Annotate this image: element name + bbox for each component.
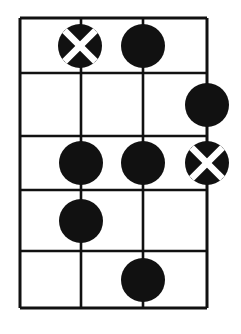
stone-filled-r2-line-right[interactable] <box>185 83 229 127</box>
grid-diagram: Grid board diagram with stones Rectangul… <box>0 0 241 334</box>
stone-filled-r4-line-b[interactable] <box>59 199 103 243</box>
stone-disc <box>59 199 103 243</box>
stone-disc <box>121 24 165 68</box>
stone-disc <box>121 141 165 185</box>
figure-root: Grid board diagram with stones Rectangul… <box>0 0 241 334</box>
stone-filled-r3-line-c[interactable] <box>121 141 165 185</box>
stone-filled-r3-line-b[interactable] <box>59 141 103 185</box>
stone-filled-r1-line-c[interactable] <box>121 24 165 68</box>
stone-disc <box>121 258 165 302</box>
stone-cross-r3-line-right[interactable] <box>185 141 229 185</box>
stone-disc <box>185 83 229 127</box>
stone-disc <box>59 141 103 185</box>
stone-cross-r1-line-b[interactable] <box>58 24 102 68</box>
stone-filled-r5-line-c[interactable] <box>121 258 165 302</box>
